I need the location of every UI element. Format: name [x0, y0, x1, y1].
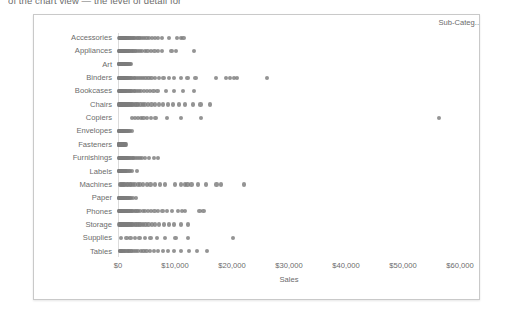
data-point[interactable] [214, 76, 218, 80]
data-point[interactable] [155, 89, 159, 93]
data-point[interactable] [133, 236, 137, 240]
data-point[interactable] [163, 236, 167, 240]
data-point[interactable] [148, 182, 152, 186]
row-marks [118, 191, 475, 204]
data-point[interactable] [181, 36, 185, 40]
row-marks [118, 151, 475, 164]
data-point[interactable] [196, 182, 200, 186]
data-point[interactable] [437, 116, 441, 120]
data-point[interactable] [167, 222, 171, 226]
data-point[interactable] [152, 156, 156, 160]
y-axis-label-machines: Machines [34, 178, 112, 191]
data-point[interactable] [165, 116, 169, 120]
data-point[interactable] [167, 36, 171, 40]
row-marks [118, 44, 475, 57]
data-point[interactable] [181, 89, 185, 93]
data-point[interactable] [147, 156, 151, 160]
data-point[interactable] [193, 76, 197, 80]
data-point[interactable] [179, 116, 183, 120]
x-tick-label: $10,000 [161, 261, 188, 270]
data-point[interactable] [163, 182, 167, 186]
data-point[interactable] [149, 116, 153, 120]
data-point[interactable] [179, 76, 183, 80]
data-point[interactable] [161, 76, 165, 80]
data-point[interactable] [242, 182, 246, 186]
plot-row: Chairs [34, 98, 477, 111]
data-point[interactable] [199, 116, 203, 120]
data-point[interactable] [179, 222, 183, 226]
data-point[interactable] [191, 102, 195, 106]
data-point[interactable] [161, 102, 165, 106]
row-marks [118, 178, 475, 191]
data-point[interactable] [158, 182, 162, 186]
data-point[interactable] [186, 222, 190, 226]
data-point[interactable] [174, 49, 178, 53]
row-marks [118, 58, 475, 71]
x-tick-label: $30,000 [275, 261, 302, 270]
data-point[interactable] [135, 169, 139, 173]
data-point[interactable] [204, 182, 208, 186]
data-point[interactable] [137, 236, 141, 240]
data-point[interactable] [148, 236, 152, 240]
data-point[interactable] [156, 156, 160, 160]
data-point[interactable] [183, 102, 187, 106]
plot-row: Envelopes [34, 124, 477, 137]
data-point[interactable] [157, 222, 161, 226]
data-point[interactable] [160, 36, 164, 40]
data-point[interactable] [153, 182, 157, 186]
data-point[interactable] [192, 49, 196, 53]
plot-row: Copiers [34, 111, 477, 124]
data-point[interactable] [130, 169, 134, 173]
data-point[interactable] [160, 209, 164, 213]
data-point[interactable] [208, 102, 212, 106]
data-point[interactable] [172, 89, 176, 93]
data-point[interactable] [171, 102, 175, 106]
data-point[interactable] [169, 49, 173, 53]
data-point[interactable] [173, 182, 177, 186]
data-point[interactable] [128, 236, 132, 240]
y-axis-label-bookcases: Bookcases [34, 84, 112, 97]
plot-row: Furnishings [34, 151, 477, 164]
data-point[interactable] [165, 209, 169, 213]
data-point[interactable] [214, 182, 218, 186]
data-point[interactable] [189, 182, 193, 186]
data-point[interactable] [201, 209, 205, 213]
row-marks [118, 205, 475, 218]
y-axis-label-appliances: Appliances [34, 44, 112, 57]
row-marks [118, 218, 475, 231]
data-point[interactable] [162, 222, 166, 226]
data-point[interactable] [231, 236, 235, 240]
data-point[interactable] [219, 182, 223, 186]
y-axis-label-storage: Storage [34, 218, 112, 231]
data-point[interactable] [177, 102, 181, 106]
data-point[interactable] [235, 76, 239, 80]
y-axis-label-chairs: Chairs [34, 98, 112, 111]
data-point[interactable] [172, 76, 176, 80]
y-axis-label-art: Art [34, 58, 112, 71]
data-point[interactable] [157, 76, 161, 80]
data-point[interactable] [186, 236, 190, 240]
data-point[interactable] [124, 142, 128, 146]
data-point[interactable] [173, 236, 177, 240]
data-point[interactable] [119, 236, 123, 240]
data-point[interactable] [129, 62, 133, 66]
data-point[interactable] [153, 116, 157, 120]
data-point[interactable] [265, 76, 269, 80]
data-point[interactable] [143, 236, 147, 240]
data-point[interactable] [170, 209, 174, 213]
data-point[interactable] [164, 89, 168, 93]
data-point[interactable] [166, 102, 170, 106]
row-marks [118, 84, 475, 97]
data-point[interactable] [183, 209, 187, 213]
plot-row: Bookcases [34, 84, 477, 97]
data-point[interactable] [160, 49, 164, 53]
data-point[interactable] [198, 102, 202, 106]
data-point[interactable] [172, 222, 176, 226]
data-point[interactable] [130, 129, 134, 133]
data-point[interactable] [192, 89, 196, 93]
data-point[interactable] [155, 236, 159, 240]
data-point[interactable] [185, 76, 189, 80]
data-point[interactable] [134, 196, 138, 200]
plot-row: Phones [34, 205, 477, 218]
data-point[interactable] [167, 76, 171, 80]
